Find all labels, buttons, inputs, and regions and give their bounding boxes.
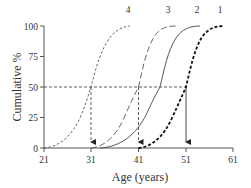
x-tick-31: 31 — [86, 155, 96, 165]
x-tick-51: 51 — [181, 155, 191, 165]
y-tick-25: 25 — [29, 113, 39, 123]
curve-3 — [91, 26, 176, 148]
curve-label-3: 3 — [166, 5, 171, 15]
x-tick-21: 21 — [39, 155, 49, 165]
curve-label-2: 2 — [195, 5, 200, 15]
x-tick-41: 41 — [134, 155, 144, 165]
x-axis: 21 31 41 51 61 Age (years) — [39, 148, 238, 184]
x-axis-label: Age (years) — [112, 170, 168, 184]
cumulative-chart: 100 75 50 25 0 Cumulative % 21 31 41 51 … — [0, 0, 251, 188]
x-tick-61: 61 — [228, 155, 238, 165]
y-tick-100: 100 — [24, 22, 39, 32]
y-axis-label: Cumulative % — [10, 53, 24, 122]
curve-label-1: 1 — [218, 5, 223, 15]
curve-label-4: 4 — [126, 5, 131, 15]
y-tick-75: 75 — [29, 52, 39, 62]
y-tick-0: 0 — [33, 144, 38, 154]
y-axis: 100 75 50 25 0 Cumulative % — [10, 22, 44, 154]
y-tick-50: 50 — [29, 83, 39, 93]
